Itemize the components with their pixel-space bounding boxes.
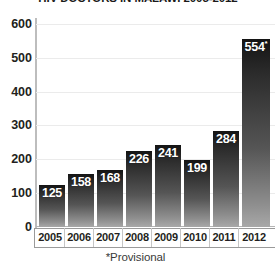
y-axis-tick-label: 600 — [0, 18, 32, 30]
bar-value-label: 125 — [39, 187, 65, 200]
bar-value-label: 199 — [184, 162, 210, 175]
x-axis: 2005 2006 2007 2008 2009 2010 2011 2012 — [36, 228, 275, 248]
y-axis-tick-label: 200 — [0, 153, 32, 165]
chart-footnote: *Provisional — [0, 251, 271, 263]
bar-2011[interactable]: 284 — [213, 131, 239, 227]
bar-value-label: 554* — [242, 41, 270, 54]
bar-2009[interactable]: 241 — [155, 145, 181, 227]
x-axis-label-2012: 2012 — [239, 228, 269, 247]
bar-2012[interactable]: 554* — [242, 39, 270, 227]
x-axis-label-2009: 2009 — [152, 228, 180, 247]
x-axis-bottom-rule — [34, 247, 275, 248]
x-axis-label-2010: 2010 — [181, 228, 209, 247]
bar-2006[interactable]: 158 — [68, 174, 94, 227]
bar-value-label: 241 — [155, 147, 181, 160]
bar-series: 125 158 168 226 241 199 284 554* — [36, 24, 275, 227]
bar-2005[interactable]: 125 — [39, 185, 65, 227]
x-axis-left-rule — [34, 228, 35, 248]
plot-area: 125 158 168 226 241 199 284 554* — [36, 24, 275, 227]
x-axis-label-2011: 2011 — [210, 228, 238, 247]
x-axis-label-2006: 2006 — [65, 228, 93, 247]
y-axis-tick-label: 500 — [0, 52, 32, 64]
bar-2007[interactable]: 168 — [97, 170, 123, 227]
x-axis-label-2007: 2007 — [94, 228, 122, 247]
bar-value-label: 168 — [97, 172, 123, 185]
chart-title: HIV DOCTORS IN MALAWI 2005-2012 — [0, 0, 276, 6]
bar-value-label: 158 — [68, 176, 94, 189]
bar-2010[interactable]: 199 — [184, 160, 210, 227]
x-axis-label-2005: 2005 — [36, 228, 64, 247]
y-axis-tick-label: 400 — [0, 86, 32, 98]
bar-value-label: 284 — [213, 133, 239, 146]
bar-value-label: 226 — [126, 153, 152, 166]
y-axis-tick-label: 100 — [0, 187, 32, 199]
y-axis-tick-label: 0 — [0, 221, 32, 233]
x-axis-label-2008: 2008 — [123, 228, 151, 247]
y-axis-tick-label: 300 — [0, 119, 32, 131]
bar-2008[interactable]: 226 — [126, 151, 152, 227]
chart-container: HIV DOCTORS IN MALAWI 2005-2012 600 500 … — [0, 0, 276, 271]
y-axis-tick-labels: 600 500 400 300 200 100 0 — [0, 0, 32, 271]
